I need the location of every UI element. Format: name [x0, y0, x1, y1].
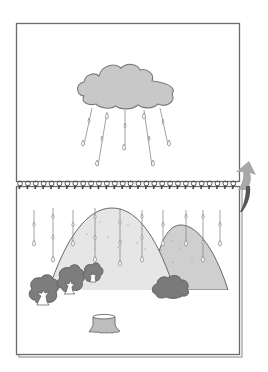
tree-stump: [89, 314, 120, 333]
notebook-illustration: [0, 0, 268, 372]
tree-small: [83, 263, 103, 282]
